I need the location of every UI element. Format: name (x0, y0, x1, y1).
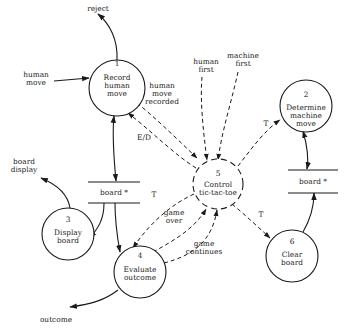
label-human-move-2: move (26, 78, 46, 87)
flow-node2-board (303, 131, 308, 169)
control-machine-first (218, 72, 238, 160)
svg-text:4: 4 (138, 251, 143, 260)
flow-board-display (41, 178, 70, 208)
svg-text:move: move (107, 89, 127, 98)
label-ed: E/D (137, 133, 151, 142)
label-t-to-6: T (259, 210, 264, 219)
svg-text:6: 6 (290, 237, 295, 246)
label-t-to-2: T (264, 119, 269, 128)
flow-reject (98, 14, 117, 60)
flow-human-move (54, 78, 89, 81)
label-board-display-2: display (11, 165, 38, 174)
control-t-to-4 (133, 194, 194, 248)
label-outcome: outcome (40, 315, 72, 324)
data-store-board-right: board * (288, 170, 338, 193)
svg-text:board: board (281, 258, 303, 267)
process-evaluate-outcome: 4 Evaluate outcome (114, 246, 166, 298)
svg-text:outcome: outcome (124, 273, 156, 282)
control-human-first (201, 77, 207, 160)
label-machine-first-2: first (235, 59, 250, 68)
flow-clear-to-board (303, 193, 314, 232)
process-control-tic-tac-toe: 5 Control tic-tac-toe (193, 159, 243, 209)
label-game-over-2: over (166, 216, 183, 225)
label-reject: reject (87, 4, 109, 13)
svg-text:2: 2 (304, 90, 309, 99)
svg-text:5: 5 (216, 169, 221, 178)
label-human-first-2: first (198, 65, 213, 74)
svg-text:move: move (296, 119, 316, 128)
label-human-move-recorded-3: recorded (145, 97, 179, 106)
control-human-move-recorded (137, 103, 197, 158)
store-label: board * (100, 188, 128, 197)
svg-text:1: 1 (115, 59, 120, 68)
flow-board-to-evaluate (115, 203, 120, 252)
flow-outcome (70, 290, 118, 307)
store-label: board * (299, 177, 327, 186)
control-t-to-6 (232, 204, 270, 238)
data-store-board-left: board * (88, 182, 140, 203)
process-display-board: 3 Display board (42, 208, 94, 260)
svg-text:3: 3 (66, 215, 71, 224)
label-game-continues-2: continues (186, 247, 223, 256)
label-t-to-4: T (152, 190, 157, 199)
process-record-human-move: 1 Record human move (89, 59, 145, 116)
svg-text:tic-tac-toe: tic-tac-toe (199, 188, 237, 197)
process-clear-board: 6 Clear board (266, 230, 318, 282)
flow-node1-board (113, 116, 116, 181)
data-flow-diagram: board * board * 1 Record human move 2 De… (0, 0, 350, 331)
svg-text:board: board (57, 236, 79, 245)
control-t-to-2 (238, 120, 280, 166)
process-determine-machine-move: 2 Determine machine move (280, 80, 332, 132)
